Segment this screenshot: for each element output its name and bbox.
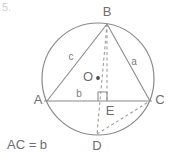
geometry-canvas: A B C D E O c a b AC = b 5. [0,0,173,164]
geometry-figure: A B C D E O c a b AC = b 5. [0,0,173,164]
right-angle-marker-icon [98,92,107,101]
vertex-label-e: E [106,103,115,118]
figure-caption: AC = b [7,137,47,152]
center-point-dot [96,76,100,80]
side-label-b: b [76,88,82,99]
vertex-label-d: D [92,138,101,153]
vertex-label-b: B [103,4,112,19]
segment-bc [107,24,150,101]
side-label-a: a [131,56,137,67]
center-label-o: O [83,69,93,84]
vertex-label-c: C [155,92,164,107]
side-label-c: c [69,51,74,62]
problem-number-label: 5. [2,1,11,13]
vertex-label-a: A [34,92,43,107]
